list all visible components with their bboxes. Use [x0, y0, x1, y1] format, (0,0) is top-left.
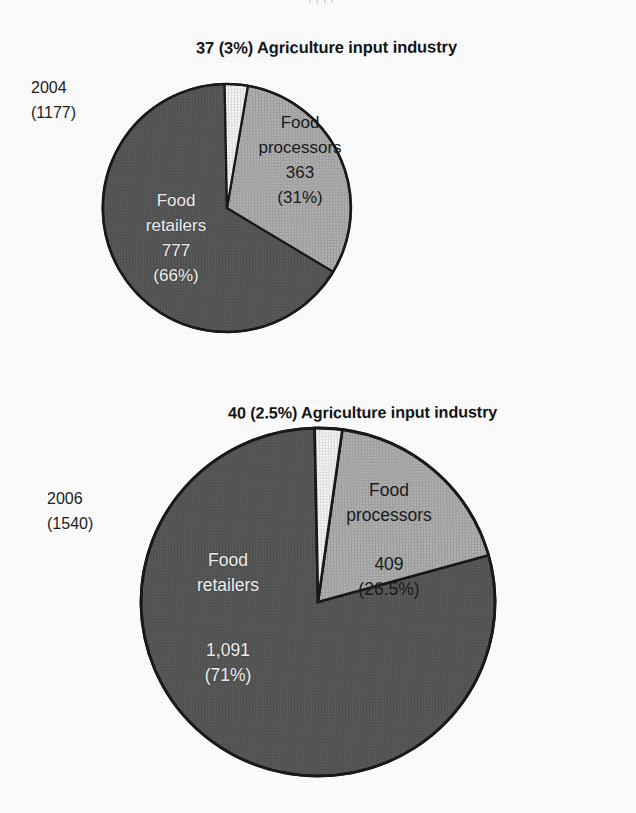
label-food-processors-2006: Food processors 409 (26.5%): [330, 478, 448, 602]
chart-2006-year-block: 2006 (1540): [47, 486, 93, 536]
top-cropped-text: ' , , , ,: [0, 0, 636, 3]
label-food-retailers-2006: Food retailers 1,091 (71%): [166, 548, 290, 688]
label-spacer: [330, 528, 448, 552]
chart-2006-total-label: (1540): [47, 511, 93, 536]
label-spacer: [166, 598, 290, 638]
chart-2004-year-block: 2004 (1177): [31, 75, 76, 125]
chart-2006-agriculture-callout: 40 (2.5%) Agriculture input industry: [228, 402, 497, 422]
chart-2006-year-label: 2006: [47, 486, 93, 511]
label-food-retailers-2004: Food retailers 777 (66%): [120, 188, 232, 288]
chart-2004-agriculture-callout: 37 (3%) Agriculture input industry: [196, 37, 457, 57]
chart-2004-total-label: (1177): [31, 100, 76, 125]
chart-2004-year-label: 2004: [31, 75, 76, 100]
figure-page: ' , , , , 37 (3%) Agriculture input indu…: [0, 0, 636, 813]
label-food-processors-2004: Food processors 363 (31%): [252, 110, 348, 210]
